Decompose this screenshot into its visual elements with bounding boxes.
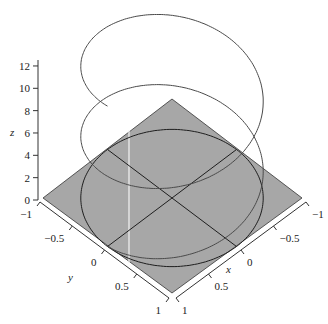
x-axis-title: x — [225, 263, 231, 275]
z-tick-label: 6 — [25, 127, 31, 139]
helix-3d-plot: 024681012 z −1−0.500.51 y −1−0.500.51 x — [0, 0, 328, 324]
z-tick-label: 4 — [25, 149, 31, 161]
z-axis: 024681012 z — [9, 60, 38, 206]
z-tick-label: 0 — [25, 194, 31, 206]
z-tick-label: 12 — [19, 60, 30, 72]
z-tick-label: 10 — [19, 82, 31, 94]
x-tick-label: 0.5 — [215, 280, 229, 292]
x-tick-label: −0.5 — [280, 232, 300, 244]
y-tick-label: −0.5 — [44, 232, 64, 244]
y-tick-label: 0.5 — [115, 280, 129, 292]
x-tick-label: −1 — [312, 208, 324, 220]
y-tick-label: −1 — [20, 208, 32, 220]
x-tick-label: 1 — [182, 304, 188, 316]
x-tick-label: 0 — [247, 256, 253, 268]
y-axis-title: y — [67, 271, 73, 283]
z-axis-title: z — [9, 126, 15, 138]
y-tick-label: 1 — [156, 304, 162, 316]
y-tick-label: 0 — [91, 256, 97, 268]
z-tick-label: 8 — [25, 105, 31, 117]
z-tick-label: 2 — [25, 172, 31, 184]
